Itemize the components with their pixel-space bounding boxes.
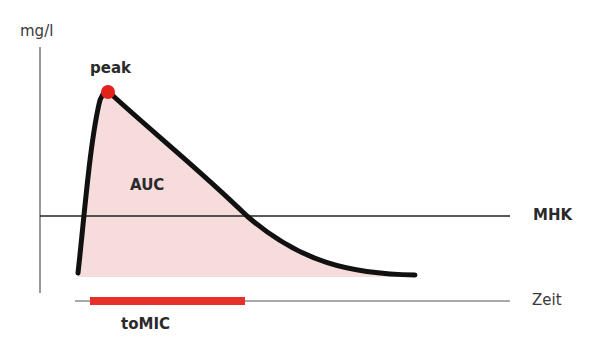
auc-label: AUC [130,176,164,194]
mhk-label: MHK [533,206,572,224]
auc-area [78,92,415,277]
peak-marker [101,85,115,99]
peak-label: peak [90,59,131,77]
tomic-label: toMIC [121,315,170,333]
tomic-duration-bar [90,297,245,305]
x-axis-label: Zeit [532,291,562,309]
pk-diagram [0,0,603,345]
y-axis-label: mg/l [20,22,53,40]
